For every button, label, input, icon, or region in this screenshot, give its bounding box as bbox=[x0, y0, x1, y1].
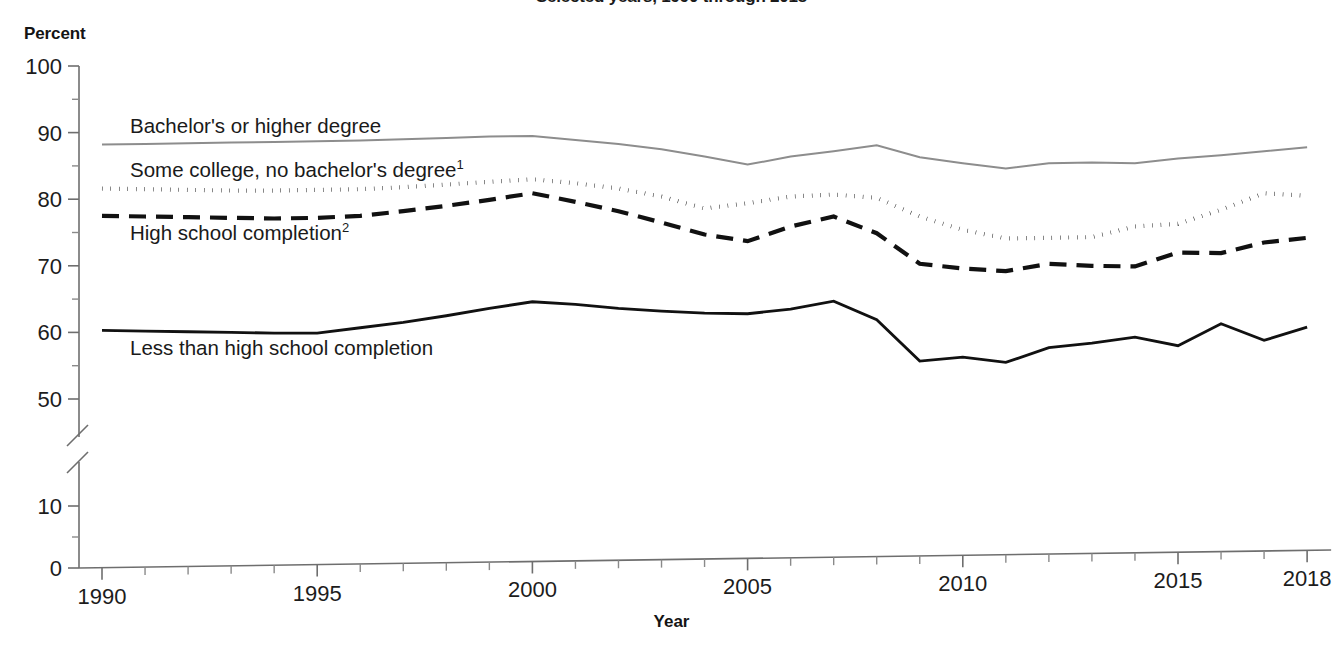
series-label-high-school: High school completion2 bbox=[130, 220, 349, 244]
y-tick-label-0: 0 bbox=[50, 556, 62, 581]
x-tick-label-2015: 2015 bbox=[1154, 568, 1203, 593]
y-tick-label-100: 100 bbox=[25, 54, 62, 79]
y-tick-label-50: 50 bbox=[38, 387, 62, 412]
chart-figure: Selected years, 1990 through 2018 Percen… bbox=[0, 0, 1343, 653]
x-tick-label-1990: 1990 bbox=[78, 584, 127, 609]
y-tick-label-90: 90 bbox=[38, 121, 62, 146]
x-tick-label-2010: 2010 bbox=[938, 571, 987, 596]
footnote-marker-high-school: 2 bbox=[342, 220, 349, 235]
series-label-some-college: Some college, no bachelor's degree1 bbox=[130, 157, 464, 181]
x-tick-label-1995: 1995 bbox=[293, 581, 342, 606]
footnote-marker-some-college: 1 bbox=[456, 157, 463, 172]
y-tick-label-80: 80 bbox=[38, 187, 62, 212]
y-tick-label-60: 60 bbox=[38, 320, 62, 345]
series-label-less-than-hs: Less than high school completion bbox=[130, 336, 433, 359]
series-label-bachelors: Bachelor's or higher degree bbox=[130, 114, 381, 137]
x-tick-label-2000: 2000 bbox=[508, 577, 557, 602]
line-chart-plot: 1009080706050100199019952000200520102015… bbox=[0, 0, 1343, 653]
y-axis-break-slash-2 bbox=[67, 452, 88, 473]
x-tick-label-2005: 2005 bbox=[723, 574, 772, 599]
y-axis-break-slash-1 bbox=[67, 425, 88, 446]
y-tick-label-70: 70 bbox=[38, 254, 62, 279]
x-axis-title: Year bbox=[0, 612, 1343, 632]
y-tick-label-10: 10 bbox=[38, 494, 62, 519]
series-inline-labels: Bachelor's or higher degreeSome college,… bbox=[130, 114, 464, 359]
x-tick-label-2018: 2018 bbox=[1283, 566, 1332, 591]
